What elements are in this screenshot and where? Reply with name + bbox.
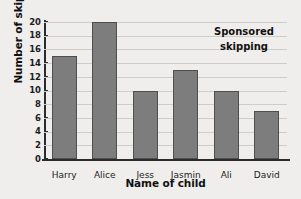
- y-tick-label: 8: [35, 100, 44, 109]
- bar-alice[interactable]: [92, 22, 117, 159]
- y-tick-label: 2: [35, 141, 44, 150]
- bar-slot: [85, 22, 126, 159]
- y-tick-label: 18: [29, 31, 44, 40]
- y-tick-label: 16: [29, 45, 44, 54]
- y-tick-label: 14: [29, 59, 44, 68]
- x-axis-title: Name of child: [44, 177, 287, 189]
- bar-slot: [125, 22, 166, 159]
- y-tick-label: 20: [29, 18, 44, 27]
- bar-slot: [44, 22, 85, 159]
- bar-jasmin[interactable]: [173, 70, 198, 159]
- bar-jess[interactable]: [133, 91, 158, 160]
- chart-title: Sponsoredskipping: [196, 25, 292, 54]
- bar-chart: Number of skips 02468101214161820 HarryA…: [0, 0, 301, 199]
- y-axis-ticks: 02468101214161820: [0, 22, 44, 159]
- bar-david[interactable]: [254, 111, 279, 159]
- bar-harry[interactable]: [52, 56, 77, 159]
- y-tick-label: 6: [35, 114, 44, 123]
- x-axis-line: [42, 159, 290, 161]
- y-tick-label: 12: [29, 73, 44, 82]
- y-tick-label: 4: [35, 127, 44, 136]
- chart-title-line-0: Sponsored: [196, 25, 292, 40]
- chart-title-line-1: skipping: [196, 40, 292, 55]
- y-tick-label: 10: [29, 86, 44, 95]
- bar-ali[interactable]: [214, 91, 239, 160]
